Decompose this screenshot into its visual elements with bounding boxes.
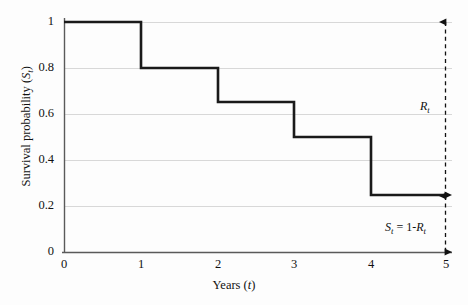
y-axis-title-main: Survival probability (	[19, 79, 33, 187]
x-axis-title: Years (t)	[0, 278, 468, 293]
x-axis-title-main: Years (	[213, 278, 248, 292]
x-tick-1: 1	[129, 257, 153, 272]
y-tick-1: 1	[14, 14, 54, 29]
x-tick-2: 2	[206, 257, 230, 272]
x-tick-0: 0	[52, 257, 76, 272]
risk-bracket-label: Rt	[420, 99, 430, 115]
y-tick-0: 0	[14, 244, 54, 259]
x-tick-3: 3	[282, 257, 306, 272]
gridlines	[64, 69, 452, 207]
survival-equation-risk-symbol: R	[416, 220, 423, 234]
y-axis-title: Survival probability (St)	[19, 36, 36, 216]
survival-step-curve	[64, 22, 445, 195]
survival-equation-risk-subscript: t	[424, 226, 426, 236]
survival-bracket-label: St = 1-Rt	[385, 220, 426, 236]
x-axis-title-close: )	[251, 278, 255, 292]
x-tick-5: 5	[434, 257, 458, 272]
x-tick-4: 4	[359, 257, 383, 272]
risk-subscript: t	[427, 105, 429, 115]
y-axis-title-subscript: t	[25, 70, 35, 73]
y-axis-title-symbol: S	[19, 73, 33, 79]
survival-equation-operator: = 1-	[393, 220, 416, 234]
y-axis-title-close: )	[19, 66, 33, 70]
survival-curve-figure: 1 0.8 0.6 0.4 0.2 0 0 1 2 3 4 5 Survival…	[0, 0, 468, 305]
